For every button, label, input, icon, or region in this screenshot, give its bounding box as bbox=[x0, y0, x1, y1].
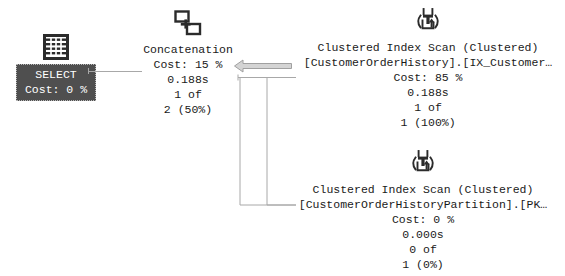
plan-node-clustered-index-scan-top[interactable]: Clustered Index Scan (Clustered) [Custom… bbox=[293, 6, 563, 130]
scan-top-rows-estimated: 1 (100%) bbox=[293, 115, 563, 130]
concatenation-cost: Cost: 15 % bbox=[132, 57, 244, 72]
scan-top-label: Clustered Index Scan (Clustered) bbox=[293, 40, 563, 55]
clustered-index-scan-icon bbox=[413, 6, 443, 40]
concatenation-icon bbox=[174, 10, 202, 42]
concatenation-rows-estimated: 2 (50%) bbox=[132, 102, 244, 117]
scan-top-elapsed: 0.188s bbox=[293, 85, 563, 100]
select-icon-container bbox=[16, 32, 96, 62]
scan-bottom-rows-actual: 0 of bbox=[288, 242, 558, 257]
scan-top-rows-actual: 1 of bbox=[293, 100, 563, 115]
scan-top-icon-container bbox=[293, 6, 563, 40]
concatenation-icon-container bbox=[132, 10, 244, 42]
select-node-cost: Cost: 0 % bbox=[21, 82, 91, 97]
select-node-box[interactable]: SELECT Cost: 0 % bbox=[16, 64, 96, 101]
concatenation-rows-actual: 1 of bbox=[132, 87, 244, 102]
plan-node-concatenation[interactable]: Concatenation Cost: 15 % 0.188s 1 of 2 (… bbox=[132, 10, 244, 117]
concatenation-label: Concatenation bbox=[132, 42, 244, 57]
scan-top-object: [CustomerOrderHistory].[IX_Customer… bbox=[293, 55, 563, 70]
concatenation-elapsed: 0.188s bbox=[132, 72, 244, 87]
scan-bottom-icon-container bbox=[288, 148, 558, 182]
scan-bottom-object: [CustomerOrderHistoryPartition].[PK… bbox=[288, 197, 558, 212]
scan-top-cost: Cost: 85 % bbox=[293, 70, 563, 85]
scan-bottom-elapsed: 0.000s bbox=[288, 227, 558, 242]
scan-bottom-cost: Cost: 0 % bbox=[288, 212, 558, 227]
plan-node-clustered-index-scan-bottom[interactable]: Clustered Index Scan (Clustered) [Custom… bbox=[288, 148, 558, 272]
scan-bottom-rows-estimated: 1 (0%) bbox=[288, 257, 558, 272]
execution-plan-canvas: SELECT Cost: 0 % Concatenation Cost: 15 … bbox=[0, 0, 565, 276]
result-grid-icon bbox=[43, 34, 69, 60]
plan-node-select[interactable]: SELECT Cost: 0 % bbox=[16, 32, 96, 101]
select-node-label: SELECT bbox=[21, 67, 91, 82]
scan-bottom-label: Clustered Index Scan (Clustered) bbox=[288, 182, 558, 197]
clustered-index-scan-icon bbox=[408, 148, 438, 182]
